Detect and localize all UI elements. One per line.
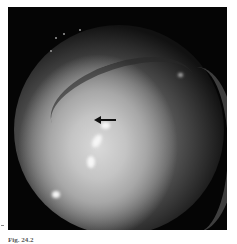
light-reflection [87, 156, 95, 168]
margin-mark [1, 225, 4, 226]
arrow-shaft [99, 119, 116, 121]
figure-caption: Fig. 24.2 [8, 236, 237, 244]
speck [50, 50, 52, 52]
speck [63, 33, 65, 35]
lumen-rim [158, 67, 227, 230]
light-reflection [178, 73, 183, 77]
light-reflection [52, 191, 60, 198]
arrow-left-icon [94, 115, 116, 125]
speck [55, 37, 57, 39]
speck [79, 29, 81, 31]
figure-label: Fig. 24.2 [8, 236, 33, 244]
endoscopy-figure [8, 7, 227, 230]
